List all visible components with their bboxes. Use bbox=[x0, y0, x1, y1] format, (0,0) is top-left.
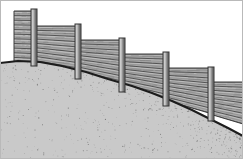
ground-speckle-dot bbox=[144, 93, 145, 94]
ground-speckle-dot bbox=[77, 82, 78, 83]
ground-speckle-dot bbox=[141, 157, 142, 158]
fence-slope-illustration bbox=[0, 0, 243, 159]
ground-speckle-dot bbox=[88, 118, 89, 119]
ground-speckle-dot bbox=[10, 111, 11, 112]
ground-speckle-dot bbox=[99, 82, 100, 83]
ground-speckle-dot bbox=[149, 103, 150, 104]
ground-speckle-dot bbox=[229, 137, 230, 138]
ground-speckle-dot bbox=[69, 96, 70, 97]
ground-speckle-dot bbox=[70, 134, 71, 135]
ground-speckle-dot bbox=[101, 151, 102, 152]
ground-speckle-dot bbox=[66, 115, 67, 116]
ground-speckle-dot bbox=[235, 156, 236, 157]
ground-speckle-dot bbox=[54, 88, 55, 89]
ground-speckle-dot bbox=[152, 144, 153, 145]
ground-speckle-dot bbox=[87, 142, 88, 143]
ground-speckle-dot bbox=[188, 117, 189, 118]
ground-speckle-dot bbox=[177, 115, 178, 116]
ground-speckle-dot bbox=[224, 139, 225, 140]
ground-speckle-dot bbox=[65, 154, 66, 155]
ground-speckle-dot bbox=[200, 149, 201, 150]
ground-speckle-dot bbox=[35, 71, 36, 72]
ground-speckle-dot bbox=[115, 138, 116, 139]
ground-speckle-dot bbox=[18, 112, 19, 113]
ground-speckle-dot bbox=[102, 113, 103, 114]
ground-speckle-dot bbox=[103, 82, 104, 83]
ground-speckle-dot bbox=[112, 108, 113, 109]
ground-speckle-dot bbox=[104, 149, 105, 150]
ground-speckle-dot bbox=[191, 135, 192, 136]
ground-speckle-dot bbox=[139, 94, 140, 95]
ground-speckle-dot bbox=[126, 98, 127, 99]
fence-post bbox=[119, 38, 125, 92]
ground-speckle-dot bbox=[9, 116, 10, 117]
ground-speckle-dot bbox=[5, 83, 6, 84]
ground-speckle-dot bbox=[171, 110, 172, 111]
ground-speckle-dot bbox=[240, 155, 241, 156]
ground-speckle-dot bbox=[192, 121, 193, 122]
ground-speckle-dot bbox=[98, 122, 99, 123]
ground-speckle-dot bbox=[212, 123, 213, 124]
ground-speckle-dot bbox=[89, 140, 90, 141]
ground-speckle-dot bbox=[241, 155, 242, 156]
ground-speckle-dot bbox=[183, 125, 184, 126]
ground-speckle-dot bbox=[156, 110, 157, 111]
ground-speckle-dot bbox=[130, 104, 131, 105]
fence-post bbox=[163, 52, 169, 106]
ground-speckle-dot bbox=[52, 105, 53, 106]
ground-speckle-dot bbox=[156, 114, 157, 115]
ground-speckle-dot bbox=[188, 116, 189, 117]
ground-speckle-dot bbox=[201, 127, 202, 128]
ground-speckle-dot bbox=[4, 68, 5, 69]
ground-speckle-dot bbox=[90, 153, 91, 154]
ground-speckle-dot bbox=[120, 125, 121, 126]
ground-speckle-dot bbox=[129, 147, 130, 148]
ground-speckle-dot bbox=[193, 138, 194, 139]
ground-speckle-dot bbox=[13, 72, 14, 73]
ground-speckle-dot bbox=[54, 90, 55, 91]
ground-speckle-dot bbox=[157, 101, 158, 102]
ground-speckle-dot bbox=[135, 110, 136, 111]
ground-speckle-dot bbox=[42, 124, 43, 125]
ground-speckle-dot bbox=[194, 151, 195, 152]
ground-speckle-dot bbox=[143, 109, 144, 110]
ground-speckle-dot bbox=[182, 146, 183, 147]
ground-speckle-dot bbox=[81, 129, 82, 130]
ground-speckle-dot bbox=[10, 102, 11, 103]
ground-speckle-dot bbox=[13, 102, 14, 103]
ground-speckle-dot bbox=[83, 130, 84, 131]
ground-speckle-dot bbox=[194, 114, 195, 115]
ground-speckle-dot bbox=[97, 127, 98, 128]
ground-speckle-dot bbox=[237, 151, 238, 152]
ground-speckle-dot bbox=[78, 83, 79, 84]
ground-speckle-dot bbox=[152, 150, 153, 151]
ground-speckle-dot bbox=[19, 111, 20, 112]
ground-speckle-dot bbox=[225, 136, 226, 137]
ground-speckle-dot bbox=[107, 89, 108, 90]
ground-speckle-dot bbox=[55, 151, 56, 152]
ground-speckle-dot bbox=[66, 127, 67, 128]
ground-speckle-dot bbox=[53, 99, 54, 100]
ground-speckle-dot bbox=[71, 71, 72, 72]
ground-speckle-dot bbox=[224, 138, 225, 139]
ground-speckle-dot bbox=[211, 122, 212, 123]
ground-speckle-dot bbox=[236, 154, 237, 155]
ground-speckle-dot bbox=[177, 133, 178, 134]
ground-speckle-dot bbox=[217, 152, 218, 153]
ground-speckle-dot bbox=[78, 104, 79, 105]
ground-speckle-dot bbox=[25, 99, 26, 100]
ground-speckle-dot bbox=[229, 157, 230, 158]
ground-speckle-dot bbox=[86, 123, 87, 124]
ground-speckle-dot bbox=[144, 108, 145, 109]
ground-speckle-dot bbox=[223, 127, 224, 128]
ground-speckle-dot bbox=[215, 145, 216, 146]
ground-speckle-dot bbox=[110, 139, 111, 140]
ground-speckle-dot bbox=[169, 125, 170, 126]
ground-speckle-dot bbox=[105, 119, 106, 120]
ground-speckle-dot bbox=[141, 148, 142, 149]
ground-speckle-dot bbox=[153, 141, 154, 142]
ground-speckle-dot bbox=[225, 134, 226, 135]
ground-speckle-dot bbox=[64, 80, 65, 81]
ground-speckle-dot bbox=[197, 131, 198, 132]
ground-speckle-dot bbox=[8, 102, 9, 103]
